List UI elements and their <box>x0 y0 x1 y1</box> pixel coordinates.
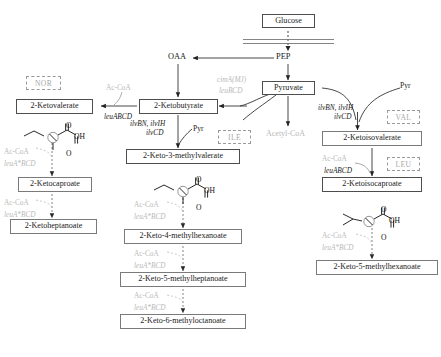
enzyme-leuA-BCD-keto6methyloctanoate: leuA*BCD <box>134 304 166 313</box>
cofactor-ac-coa-ketovalerate: Ac-CoA <box>106 84 131 93</box>
aminoacid-box-val[interactable]: VAL <box>387 110 420 124</box>
cofactor-pyr-ketobutyrate: Pyr <box>193 124 204 133</box>
node-2-ketocaproate[interactable]: 2-Ketocaproate <box>18 177 92 192</box>
enzyme-ilvBN-ilvIH-pyruvate: ilvBN, ilvIH <box>318 103 353 112</box>
node-2-ketovalerate[interactable]: 2-Ketovalerate <box>16 99 93 114</box>
cofactor-ac-coa-keto5methylheptanoate: Ac-CoA <box>134 250 159 259</box>
pathway-diagram: O OH O O OH O <box>0 0 441 357</box>
node-2-ketobutyrate[interactable]: 2-Ketobutyrate <box>139 99 218 114</box>
node-glucose[interactable]: Glucose <box>262 14 315 28</box>
cofactor-ac-coa-ketoisocaproate: Ac-CoA <box>322 155 347 164</box>
cofactor-ac-coa-keto4methylhexanoate: Ac-CoA <box>134 201 159 210</box>
label-acetyl-coa: Acetyl-CoA <box>266 129 305 139</box>
cofactor-ac-coa-ketoheptanoate: Ac-CoA <box>4 199 29 208</box>
node-2-keto-3-methylvalerate[interactable]: 2-Keto-3-methylvalerate <box>126 149 240 164</box>
node-2-keto-5-methylheptanoate[interactable]: 2-Keto-5-methylheptanoate <box>120 272 246 287</box>
enzyme-cimA-MJ: cimA(MJ) <box>217 76 246 85</box>
aminoacid-box-ile[interactable]: ILE <box>218 130 251 144</box>
cofactor-ac-coa-keto6methyloctanoate: Ac-CoA <box>134 292 159 301</box>
svg-text:OH: OH <box>389 216 400 225</box>
cofactor-ac-coa-keto5methylhexanoate: Ac-CoA <box>322 232 347 241</box>
node-2-ketoheptanoate[interactable]: 2-Ketoheptanoate <box>10 219 97 234</box>
svg-text:O: O <box>381 205 387 214</box>
cofactor-ac-coa-ketocaproate: Ac-CoA <box>4 148 29 157</box>
enzyme-leuA-BCD-keto4methylhexanoate: leuA*BCD <box>134 213 166 222</box>
svg-text:O: O <box>381 233 387 242</box>
enzyme-leuBCD: leuBCD <box>219 87 243 96</box>
enzyme-leuABCD-ketovalerate: leuABCD <box>104 112 132 121</box>
enzyme-leuA-BCD-ketoheptanoate: leuA*BCD <box>4 211 36 220</box>
node-2-keto-4-methylhexanoate[interactable]: 2-Keto-4-methylhexanoate <box>124 229 242 244</box>
enzyme-leuA-BCD-keto5methylhexanoate: leuA*BCD <box>322 244 354 253</box>
node-2-keto-5-methylhexanoate[interactable]: 2-Keto-5-methylhexanoate <box>316 260 438 275</box>
cofactor-pyr-pyruvate: Pyr <box>400 81 411 90</box>
aminoacid-box-leu[interactable]: LEU <box>387 157 420 171</box>
node-pep[interactable]: PEP <box>275 52 291 61</box>
enzyme-leuA-BCD-ketocaproate: leuA*BCD <box>4 160 36 169</box>
enzyme-ilvBN-ilvIH-ketobutyrate: ilvBN, ilvIH <box>130 119 165 128</box>
aminoacid-box-nor[interactable]: NOR <box>26 76 61 90</box>
node-pyruvate[interactable]: Pyruvate <box>262 81 315 95</box>
node-2-keto-6-methyloctanoate[interactable]: 2-Keto-6-methyloctanoate <box>120 314 246 329</box>
enzyme-leuA-BCD-keto5methylheptanoate: leuA*BCD <box>134 262 166 271</box>
enzyme-ilvCD-pyruvate: ilvCD <box>334 112 351 121</box>
enzyme-leuABCD-ketoisocaproate: leuABCD <box>324 166 352 175</box>
enzyme-ilvCD-ketobutyrate: ilvCD <box>146 128 163 137</box>
node-2-ketoisovalerate[interactable]: 2-Ketoisovalerate <box>322 131 422 146</box>
node-2-ketoisocaproate[interactable]: 2-Ketoisocaproate <box>322 177 422 192</box>
node-oaa[interactable]: OAA <box>167 52 187 61</box>
